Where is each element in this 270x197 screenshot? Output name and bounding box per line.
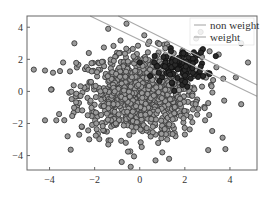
majority-point	[156, 140, 161, 145]
majority-point	[111, 102, 116, 107]
minority-point	[201, 73, 206, 78]
majority-point	[104, 111, 109, 116]
majority-point	[165, 137, 170, 142]
majority-point	[172, 104, 177, 109]
minority-point	[137, 60, 142, 65]
majority-point	[125, 59, 130, 64]
majority-point	[190, 93, 195, 98]
majority-point	[142, 33, 147, 38]
majority-point	[163, 46, 168, 51]
majority-point	[223, 147, 228, 152]
majority-point	[151, 93, 156, 98]
majority-point	[157, 41, 162, 46]
majority-point	[159, 96, 164, 101]
majority-point	[167, 122, 172, 127]
majority-point	[143, 101, 148, 106]
majority-point	[108, 138, 113, 143]
majority-point	[121, 88, 126, 93]
x-tick-label: 0	[137, 174, 142, 185]
majority-point	[154, 85, 159, 90]
majority-point	[159, 131, 164, 136]
majority-point	[163, 87, 168, 92]
majority-point	[71, 83, 76, 88]
majority-point	[85, 113, 90, 118]
majority-point	[199, 84, 204, 89]
majority-point	[49, 87, 54, 92]
y-tick-label: −2	[12, 118, 23, 129]
majority-point	[67, 69, 72, 74]
y-tick-label: 0	[18, 86, 23, 97]
majority-point	[119, 159, 124, 164]
majority-point	[134, 120, 139, 125]
majority-point	[89, 61, 94, 66]
majority-point	[144, 126, 149, 131]
majority-point	[170, 132, 175, 137]
minority-point	[148, 73, 153, 78]
majority-point	[182, 132, 187, 137]
majority-point	[74, 60, 79, 65]
majority-point	[140, 95, 145, 100]
minority-point	[175, 67, 180, 72]
minority-point	[181, 51, 186, 56]
x-tick-label: −4	[44, 174, 55, 185]
majority-point	[220, 135, 225, 140]
majority-point	[150, 124, 155, 129]
minority-point	[188, 76, 193, 81]
majority-point	[93, 83, 98, 88]
majority-point	[128, 164, 133, 169]
majority-point	[160, 150, 165, 155]
minority-point	[155, 64, 160, 69]
majority-point	[202, 106, 207, 111]
minority-point	[168, 49, 173, 54]
minority-point	[183, 73, 188, 78]
majority-point	[239, 102, 244, 107]
majority-point	[190, 107, 195, 112]
majority-point	[133, 104, 138, 109]
majority-point	[106, 26, 111, 31]
majority-point	[57, 112, 62, 117]
majority-point	[101, 45, 106, 50]
minority-point	[172, 88, 177, 93]
majority-point	[78, 93, 83, 98]
majority-point	[133, 68, 138, 73]
majority-point	[159, 118, 164, 123]
majority-point	[88, 79, 93, 84]
legend-label-weight: weight	[210, 31, 240, 43]
majority-point	[206, 148, 211, 153]
majority-point	[70, 113, 75, 118]
majority-point	[207, 49, 212, 54]
majority-point	[196, 106, 201, 111]
majority-point	[168, 97, 173, 102]
majority-point	[148, 134, 153, 139]
majority-point	[139, 144, 144, 149]
majority-point	[130, 109, 135, 114]
majority-point	[111, 58, 116, 63]
majority-point	[129, 75, 134, 80]
majority-point	[50, 70, 55, 75]
majority-point	[172, 111, 177, 116]
majority-point	[206, 101, 211, 106]
majority-point	[167, 156, 172, 161]
legend: non weight weight	[190, 18, 259, 45]
majority-point	[222, 98, 227, 103]
majority-point	[131, 54, 136, 59]
minority-point	[169, 80, 174, 85]
majority-point	[182, 125, 187, 130]
majority-point	[72, 41, 77, 46]
majority-point	[177, 88, 182, 93]
majority-point	[42, 68, 47, 73]
majority-point	[101, 104, 106, 109]
majority-point	[93, 95, 98, 100]
majority-point	[78, 84, 83, 89]
majority-point	[153, 158, 158, 163]
majority-point	[149, 116, 154, 121]
majority-point	[86, 128, 91, 133]
majority-point	[61, 60, 66, 65]
majority-point	[146, 83, 151, 88]
majority-point	[121, 123, 126, 128]
majority-point	[116, 112, 121, 117]
majority-point	[128, 84, 133, 89]
majority-point	[99, 59, 104, 64]
majority-point	[100, 124, 105, 129]
majority-point	[170, 117, 175, 122]
